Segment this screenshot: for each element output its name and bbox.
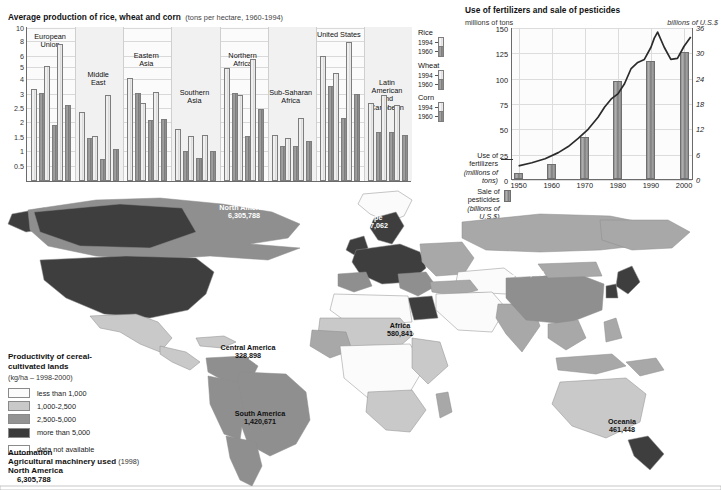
map-legend-classes: less than 1,0001,000-2,5002,500-5,000mor… — [8, 388, 193, 455]
bar-rice-1994-northern-africa — [224, 68, 230, 181]
bar-wheat-1960-middle-east — [100, 159, 106, 181]
map-legend-title: Productivity of cereal- cultivated lands — [8, 352, 193, 372]
bar-corn-1960-latin-american-and-caribbean — [402, 135, 408, 181]
bar-rice-1994-united-states — [320, 56, 326, 181]
map-label-europe: Europe 12,137,062 — [352, 214, 388, 231]
fertilizer-gridline-h: 0 — [512, 180, 692, 181]
bar-legend-year-label: 1994 — [418, 104, 435, 111]
bar-corn-1960-middle-east — [113, 149, 119, 181]
map-region-argentina-chile — [226, 436, 262, 486]
map-legend-title-line1: Productivity of cereal- — [8, 352, 92, 361]
fertilizer-left-tick: 50 — [500, 126, 508, 135]
map-region-mongolia — [538, 262, 602, 278]
bar-chart-title-text: Average production of rice, wheat and co… — [8, 12, 181, 22]
bar-chart-legend: Rice19941960Wheat19941960Corn19941960 — [418, 28, 455, 126]
bar-legend-row: 1994 — [418, 71, 455, 80]
fertilizer-use-line-svg — [512, 28, 694, 180]
bar-legend-crop-label: Corn — [418, 93, 455, 102]
bar-legend-row: 1994 — [418, 103, 455, 112]
map-legend-swatch — [8, 388, 30, 398]
bar-chart-panel: Average production of rice, wheat and co… — [0, 0, 455, 190]
bar-wheat-1960-eastern-asia — [148, 120, 154, 181]
bar-corn-1960-united-states — [354, 94, 360, 181]
automation-heading: Automation — [8, 448, 208, 457]
bar-wheat-1960-southern-asia — [196, 158, 202, 181]
map-region-philippines — [604, 318, 622, 342]
bar-rice-1994-sub-saharan-africa — [272, 135, 278, 181]
bar-chart-group-divider — [220, 27, 221, 181]
bar-chart-y-tick: 0.5 — [14, 163, 24, 170]
legend-line-symbol — [501, 159, 513, 160]
automation-block: Automation Agricultural machinery used (… — [8, 448, 208, 484]
bar-chart-group-divider — [75, 27, 76, 181]
bar-legend-swatch-1960 — [438, 46, 444, 57]
bar-rice-1994-eastern-asia — [127, 78, 133, 181]
bar-legend-year-label: 1994 — [418, 39, 435, 46]
bar-chart-group-label: Middle East — [74, 71, 122, 87]
bar-chart-group-label: Sub-Saharan Africa — [267, 89, 315, 105]
bar-legend-year-label: 1960 — [418, 81, 435, 88]
bar-chart-y-tick: 1 — [20, 149, 24, 156]
map-legend-row: 2,500-5,000 — [8, 414, 193, 424]
fertilizer-left-tick: 75 — [500, 101, 508, 110]
bar-wheat-1960-united-states — [341, 118, 347, 181]
fertilizer-right-tick: 6 — [696, 150, 700, 159]
bar-chart-y-tick: 10 — [16, 26, 24, 33]
automation-region: North America — [8, 466, 208, 475]
bar-corn-1960-southern-asia — [210, 151, 216, 181]
bar-rice-1994-european-union — [31, 89, 37, 181]
map-label-asia: Asia 9,145,623 — [512, 262, 544, 279]
fertilizer-right-axis-unit: billions of U.S.$ — [667, 18, 718, 27]
map-region-mexico — [90, 314, 172, 352]
bar-legend-year-label: 1960 — [418, 48, 435, 55]
bar-chart-plot-area: 0.511.522.53456810 — [26, 27, 411, 182]
map-legend-class-label: less than 1,000 — [37, 389, 87, 398]
bar-chart-group-divider — [316, 27, 317, 181]
bar-rice-1960-united-states — [328, 86, 334, 181]
fertilizer-legend-label: Use offertilizers(millions of tons) — [455, 152, 498, 185]
map-label-africa: Africa 580,841 — [387, 322, 413, 339]
bar-legend-row: 1960 — [418, 112, 455, 121]
map-region-korea — [606, 284, 618, 298]
bar-wheat-1960-northern-africa — [245, 136, 251, 181]
bar-rice-1994-latin-american-and-caribbean — [368, 103, 374, 181]
fertilizer-left-tick: 125 — [496, 50, 508, 59]
bar-chart-y-tick: 8 — [20, 39, 24, 46]
map-legend-swatch — [8, 414, 30, 424]
bar-chart-group-label: Northern Africa — [219, 52, 267, 68]
bar-chart-group-label: Southern Asia — [170, 89, 218, 105]
bar-legend-swatch-1960 — [438, 79, 444, 90]
map-region-japan — [616, 266, 640, 294]
bar-chart-group-divider — [123, 27, 124, 181]
map-region-iberia — [338, 272, 372, 292]
bar-wheat-1960-latin-american-and-caribbean — [389, 132, 395, 181]
bar-chart-y-tick: 3 — [20, 91, 24, 98]
fertilizer-right-tick: 12 — [696, 125, 704, 134]
map-legend-swatch — [8, 401, 30, 411]
bar-chart-subtitle-text: (tons per hectare, 1960-1994) — [185, 13, 283, 22]
bar-chart-group-label: United States — [315, 31, 363, 39]
bar-chart-group-label: Eastern Asia — [122, 52, 170, 68]
bar-legend-row: 1960 — [418, 47, 455, 56]
fertilizer-right-tick: 18 — [696, 100, 704, 109]
bar-corn-1960-european-union — [65, 105, 71, 181]
bar-chart-y-tick: 5 — [20, 65, 24, 72]
fertilizer-plot-area: 0255075100125150061218243036195019601970… — [511, 28, 693, 180]
map-label-oceania: Oceania 461,448 — [608, 418, 636, 435]
map-region-peru-bolivia — [208, 376, 244, 440]
bar-legend-group-wheat: Wheat19941960 — [418, 61, 455, 89]
map-region-madagascar — [436, 392, 452, 418]
fertilizer-right-tick: 0 — [696, 176, 700, 185]
fertilizer-right-tick: 30 — [696, 49, 704, 58]
map-region-usa — [40, 256, 214, 318]
bar-rice-1960-eastern-asia — [135, 93, 141, 181]
bar-legend-group-rice: Rice19941960 — [418, 28, 455, 56]
map-legend-subtitle: (kg/ha – 1998-2000) — [8, 373, 193, 382]
map-region-africa-south — [366, 390, 426, 432]
bar-rice-1960-sub-saharan-africa — [280, 146, 286, 181]
fertilizer-use-line — [519, 32, 691, 166]
map-legend: Productivity of cereal- cultivated lands… — [8, 352, 193, 458]
bar-legend-swatch-1960 — [438, 111, 444, 122]
bar-legend-year-label: 1994 — [418, 72, 435, 79]
bar-chart-y-tick: 1.5 — [14, 134, 24, 141]
